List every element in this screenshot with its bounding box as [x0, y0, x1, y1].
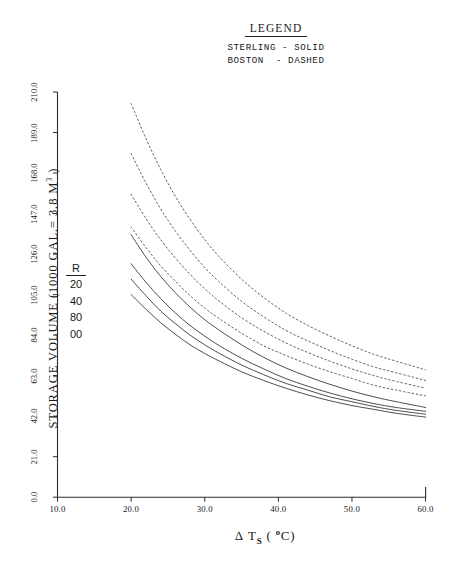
x-axis-tick-label: 40.0 — [258, 504, 298, 514]
data-curve — [131, 279, 425, 414]
y-axis-tick-label: 147.0 — [19, 209, 49, 219]
y-axis-tick-label-text: 63.0 — [29, 361, 39, 391]
x-axis-tick-label: 50.0 — [332, 504, 372, 514]
y-axis-tick-label: 189.0 — [19, 128, 49, 138]
y-axis-tick-label-text: 42.0 — [29, 401, 39, 431]
x-axis-tick-label: 10.0 — [38, 504, 78, 514]
y-axis-tick-label-text: 210.0 — [29, 77, 39, 107]
x-axis-ticks — [58, 497, 426, 502]
data-curve — [131, 194, 425, 388]
data-curve — [131, 154, 425, 381]
y-axis-tick-label: 42.0 — [19, 411, 49, 421]
y-axis-tick-label-text: 105.0 — [29, 280, 39, 310]
y-axis-tick-label: 105.0 — [19, 290, 49, 300]
data-curves — [131, 104, 425, 418]
y-axis-tick-label-text: 168.0 — [29, 158, 39, 188]
y-axis-tick-label: 0.0 — [19, 492, 49, 502]
x-axis-tick-label: 20.0 — [111, 504, 151, 514]
y-axis-tick-label: 21.0 — [19, 452, 49, 462]
y-axis-tick-label-text: 147.0 — [29, 199, 39, 229]
x-axis-tick-label: 60.0 — [406, 504, 446, 514]
x-axis-tick-label: 30.0 — [185, 504, 225, 514]
y-axis-tick-label-text: 84.0 — [29, 320, 39, 350]
y-axis-tick-label: 63.0 — [19, 371, 49, 381]
y-axis-ticks — [53, 92, 58, 497]
y-axis-tick-label-text: 126.0 — [29, 239, 39, 269]
y-axis-tick-label-text: 189.0 — [29, 118, 39, 148]
data-curve — [131, 264, 425, 412]
data-curve — [131, 227, 425, 396]
y-axis-tick-label-text: 21.0 — [29, 442, 39, 472]
plot-area — [0, 0, 471, 561]
y-axis-tick-label: 126.0 — [19, 249, 49, 259]
y-axis-tick-label: 210.0 — [19, 87, 49, 97]
data-curve — [131, 104, 425, 370]
y-axis-tick-label: 168.0 — [19, 168, 49, 178]
data-curve — [131, 235, 425, 408]
y-axis-tick-label: 84.0 — [19, 330, 49, 340]
axis-lines — [57, 92, 426, 498]
chart-figure: LEGEND STERLING - SOLID BOSTON - DASHED … — [0, 0, 471, 561]
